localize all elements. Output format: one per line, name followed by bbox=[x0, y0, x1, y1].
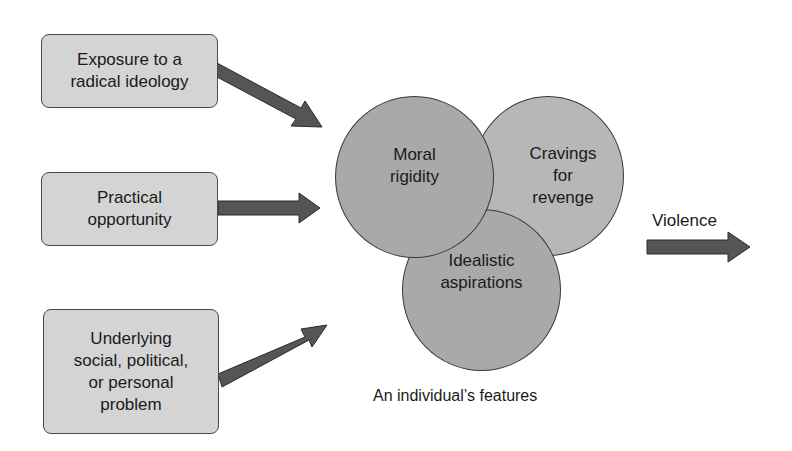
output-label-violence: Violence bbox=[652, 211, 717, 231]
input-box-exposure: Exposure to a radical ideology bbox=[41, 34, 218, 108]
arrow-violence bbox=[647, 232, 750, 262]
input-problem-line-4: problem bbox=[100, 394, 161, 416]
feature-moral-line-2: rigidity bbox=[390, 166, 439, 188]
arrow-exposure-to-features bbox=[217, 63, 322, 127]
feature-revenge-line-1: Cravings bbox=[529, 143, 596, 165]
feature-revenge-line-2: for bbox=[553, 165, 573, 187]
input-box-problem: Underlying social, political, or persona… bbox=[43, 309, 219, 434]
feature-idealistic-line-2: aspirations bbox=[440, 272, 522, 294]
arrow-problem-to-features bbox=[218, 325, 327, 387]
input-problem-line-1: Underlying bbox=[90, 328, 171, 350]
features-caption: An individual’s features bbox=[373, 387, 537, 405]
feature-revenge-line-3: revenge bbox=[532, 187, 593, 209]
input-opportunity-line-2: opportunity bbox=[87, 209, 171, 231]
input-exposure-line-1: Exposure to a bbox=[77, 49, 182, 71]
input-problem-line-3: or personal bbox=[88, 372, 173, 394]
input-problem-line-2: social, political, bbox=[74, 350, 188, 372]
feature-moral-line-1: Moral bbox=[393, 144, 436, 166]
input-exposure-line-2: radical ideology bbox=[70, 71, 188, 93]
input-opportunity-line-1: Practical bbox=[97, 187, 162, 209]
arrow-opportunity-to-features bbox=[218, 193, 320, 223]
feature-circle-moral: Moral rigidity bbox=[335, 96, 494, 258]
input-box-opportunity: Practical opportunity bbox=[41, 172, 218, 246]
feature-idealistic-line-1: Idealistic bbox=[448, 250, 514, 272]
